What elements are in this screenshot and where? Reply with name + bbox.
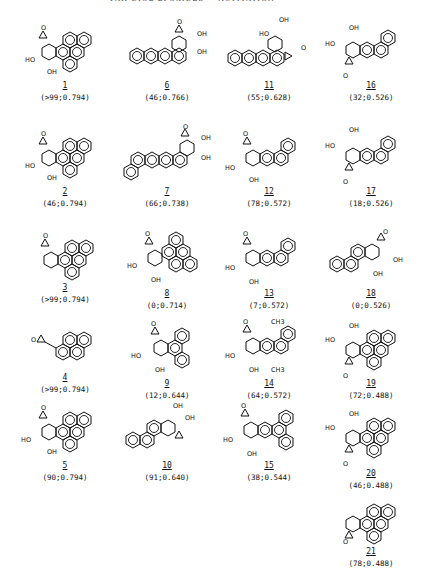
svg-text:OH: OH [279,16,289,24]
svg-text:O: O [41,24,46,32]
svg-text:OH: OH [349,24,359,32]
compound-17: HO OH O 17 (18;0.526) [316,124,426,208]
svg-text:HO: HO [325,336,335,344]
compound-values: (46;0.794) [10,199,120,208]
svg-text:OH: OH [249,278,259,286]
compound-values: (7;0.572) [214,301,324,310]
compound-8: O HO OH 8 (0;0.714) [112,228,222,310]
compound-number: 17 [316,187,426,196]
svg-text:OH: OH [349,410,359,418]
svg-text:HO: HO [325,142,335,150]
compound-number: 12 [214,187,324,196]
svg-text:O: O [41,404,46,412]
structure-21: O [321,496,421,546]
compound-4: O 4 (>99;0.794) [10,320,120,394]
compound-values: (>99;0.794) [10,385,120,394]
structure-8: O HO OH [117,228,217,288]
svg-text:O: O [183,124,188,131]
svg-text:O: O [301,44,306,52]
compound-number: 16 [316,81,426,90]
compound-values: (46;0.488) [316,481,426,490]
svg-text:OH: OH [247,450,257,458]
compound-2: O HO OH 2 (46;0.794) [10,124,120,208]
structure-20: HO OH O [321,406,421,468]
compound-6: O OH OH 6 (46;0.766) [112,18,222,102]
compound-values: (38;0.544) [214,473,324,482]
svg-text:HO: HO [223,436,233,444]
compound-number: 8 [112,289,222,298]
compound-number: 4 [10,373,120,382]
svg-text:O: O [151,320,156,328]
page-header: PAH DIOL EPOXIDES — ACTIVATION [110,0,290,3]
compound-number: 9 [112,379,222,388]
structure-4: O [15,320,115,372]
compound-values: (46;0.766) [112,93,222,102]
compound-21: O 21 (78;0.488) [316,496,426,568]
compound-values: (66;0.738) [112,199,222,208]
svg-text:OH: OH [249,176,259,184]
svg-text:O: O [41,130,46,138]
compound-number: 19 [316,379,426,388]
compound-number: 14 [214,379,324,388]
compound-values: (18;0.526) [316,199,426,208]
svg-text:OH: OH [151,276,161,284]
structure-18: O OH OH [321,226,421,288]
compound-values: (78;0.488) [316,559,426,568]
svg-text:OH: OH [349,126,359,134]
compound-number: 3 [10,283,120,292]
svg-text:HO: HO [21,436,31,444]
svg-text:O: O [343,460,348,468]
structure-2: O HO OH [15,124,115,186]
compound-13: O HO OH 13 (7;0.572) [214,228,324,310]
compound-19: HO OH O 19 (72;0.488) [316,316,426,400]
svg-text:HO: HO [25,162,35,170]
structure-10: OH OH [117,398,217,460]
compound-values: (0;0.526) [316,301,426,310]
svg-text:O: O [241,402,246,410]
svg-text:OH: OH [393,256,403,264]
svg-text:O: O [243,130,248,138]
compound-values: (91;0.640) [112,473,222,482]
structure-9: O HO OH [117,318,217,378]
svg-text:HO: HO [225,164,235,172]
compound-number: 20 [316,469,426,478]
svg-text:OH: OH [47,68,57,76]
structure-16: HO OH O [321,20,421,80]
compound-12: O HO OH 12 (78;0.572) [214,124,324,208]
compound-3: O 3 (>99;0.794) [10,230,120,304]
svg-text:O: O [343,372,348,378]
svg-text:OH: OH [173,402,183,410]
compound-values: (90;0.794) [10,473,120,482]
compound-number: 13 [214,289,324,298]
compound-values: (>99;0.794) [10,93,120,102]
svg-text:HO: HO [259,30,269,38]
compound-number: 2 [10,187,120,196]
compound-values: (0;0.714) [112,301,222,310]
compound-5: O HO OH 5 (90;0.794) [10,398,120,482]
structure-12: O HO OH [219,124,319,186]
compound-7: O OH OH 7 (66;0.738) [112,124,222,208]
svg-text:CH3: CH3 [271,318,285,326]
svg-text:OH: OH [47,174,57,182]
svg-text:O: O [243,318,248,326]
svg-text:HO: HO [127,262,137,270]
svg-text:O: O [343,538,348,546]
compound-values: (78;0.572) [214,199,324,208]
svg-text:OH: OH [373,270,383,278]
svg-text:OH: OH [201,154,211,162]
svg-text:OH: OH [249,366,259,374]
svg-text:OH: OH [201,134,211,142]
structure-15: O HO OH [219,398,319,460]
svg-text:OH: OH [47,448,57,456]
compound-20: HO OH O 20 (46;0.488) [316,406,426,490]
svg-text:HO: HO [325,40,335,48]
compound-1: O HO OH 1 (>99;0.794) [10,18,120,102]
structure-6: O OH OH [117,18,217,80]
svg-text:O: O [343,72,348,80]
svg-text:HO: HO [325,424,335,432]
structure-1: O HO OH [15,18,115,80]
svg-text:OH: OH [185,414,195,422]
compound-values: (32;0.526) [316,93,426,102]
svg-text:OH: OH [197,30,207,38]
compound-15: O HO OH 15 (38;0.544) [214,398,324,482]
